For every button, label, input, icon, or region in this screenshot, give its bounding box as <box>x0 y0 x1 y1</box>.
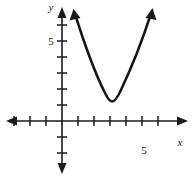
x-axis-label: x <box>177 136 183 148</box>
y-tick-label-5: 5 <box>48 35 54 47</box>
parabola-curve-group <box>70 8 157 102</box>
x-axis-left-arrowhead <box>6 117 17 126</box>
x-axis-right-arrowhead <box>177 117 188 126</box>
parabola-curve <box>76 15 151 102</box>
y-axis-top-arrowhead <box>58 7 67 18</box>
parabola-right-arrowhead <box>146 8 157 20</box>
graph-screenshot: y x 5 5 <box>0 0 195 179</box>
y-axis-group <box>57 7 67 174</box>
parabola-left-arrowhead <box>70 9 81 21</box>
y-axis-label: y <box>48 1 54 13</box>
x-tick-label-5: 5 <box>141 144 147 156</box>
x-axis-group <box>6 116 188 126</box>
coordinate-plane-figure: y x 5 5 <box>0 0 195 179</box>
y-axis-bottom-arrowhead <box>58 163 67 174</box>
